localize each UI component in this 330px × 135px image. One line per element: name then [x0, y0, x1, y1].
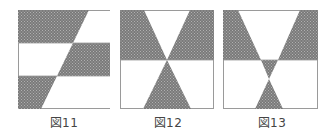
figure-11-diagram: [0, 0, 110, 112]
figure-12: 図12: [110, 0, 220, 112]
figure-13-diagram: [220, 0, 330, 112]
figure-12-caption: 図12: [118, 113, 218, 130]
figure-12-diagram: [110, 0, 220, 112]
figure-13: 図13: [220, 0, 330, 112]
figure-11-caption: 図11: [14, 113, 114, 130]
figure-11: 図11: [0, 0, 110, 112]
figure-13-caption: 図13: [222, 113, 322, 130]
